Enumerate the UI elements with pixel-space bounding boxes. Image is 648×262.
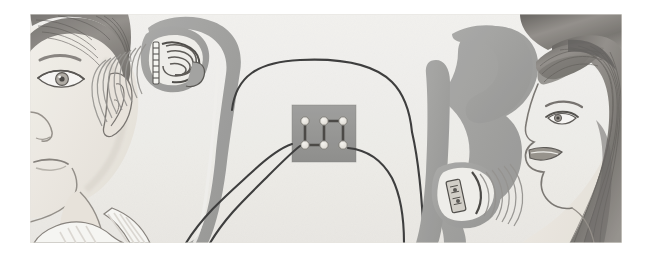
illustration-stage: Telephone handset sound transmission dia… — [0, 0, 648, 262]
illustration-canvas — [0, 0, 648, 262]
plate-wash — [30, 14, 622, 243]
telephone-diagram-illustration — [0, 0, 648, 262]
illustration-plate — [30, 14, 622, 243]
